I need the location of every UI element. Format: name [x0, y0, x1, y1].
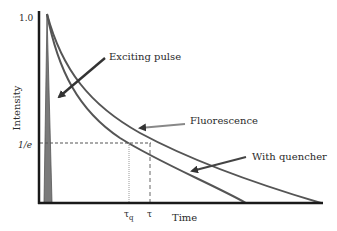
y-tick-1-0: 1.0 — [19, 13, 34, 23]
y-tick-1-over-e: 1/e — [18, 140, 32, 150]
quencher-curve — [47, 14, 246, 203]
tau-q-subscript: q — [129, 214, 134, 222]
exciting-pulse-shape — [44, 14, 52, 203]
fluorescence-decay-diagram: 1.0 1/e τq τ Time Intensity Exciting pul… — [0, 0, 337, 231]
x-tick-tau-q: τq — [124, 209, 134, 222]
x-axis-label: Time — [172, 212, 197, 223]
x-tick-tau: τ — [147, 209, 152, 219]
y-axis-label: Intensity — [11, 85, 22, 130]
fluorescence-label: Fluorescence — [190, 115, 258, 126]
fluorescence-arrow — [140, 124, 185, 128]
quencher-label: With quencher — [252, 151, 327, 162]
exciting-pulse-label: Exciting pulse — [109, 51, 181, 62]
